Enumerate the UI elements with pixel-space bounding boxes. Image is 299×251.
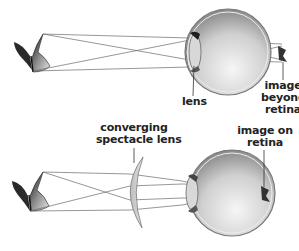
converging-spectacle-lens-label: converging spectacle lens xyxy=(96,122,172,146)
converging-lens-icon xyxy=(130,157,143,228)
bottom-panel xyxy=(12,148,275,236)
butterfly-icon xyxy=(14,34,50,72)
image-icon xyxy=(278,46,287,62)
image-label-line3: retina xyxy=(261,104,299,116)
top-panel xyxy=(14,9,287,96)
lens-label: lens xyxy=(182,96,207,108)
butterfly-icon xyxy=(12,172,49,211)
eyeball-icon xyxy=(185,9,271,95)
spectacle-label-line2: spectacle lens xyxy=(96,134,172,146)
image-beyond-retina-label: image beyond retina xyxy=(261,80,299,116)
image-on-label-line2: retina xyxy=(236,137,294,149)
image-on-retina-label: image on retina xyxy=(236,125,294,149)
